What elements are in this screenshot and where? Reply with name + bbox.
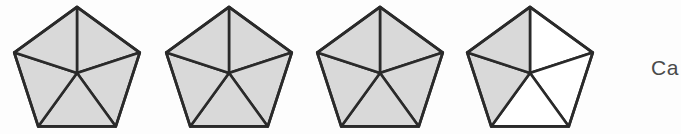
pentagon <box>467 7 593 126</box>
pentagon <box>166 7 292 126</box>
pentagon-row-diagram <box>0 0 681 134</box>
caption-label: Ca <box>651 57 679 78</box>
pentagon <box>317 7 443 126</box>
figure-canvas: Ca <box>0 0 681 134</box>
pentagon <box>14 7 140 126</box>
